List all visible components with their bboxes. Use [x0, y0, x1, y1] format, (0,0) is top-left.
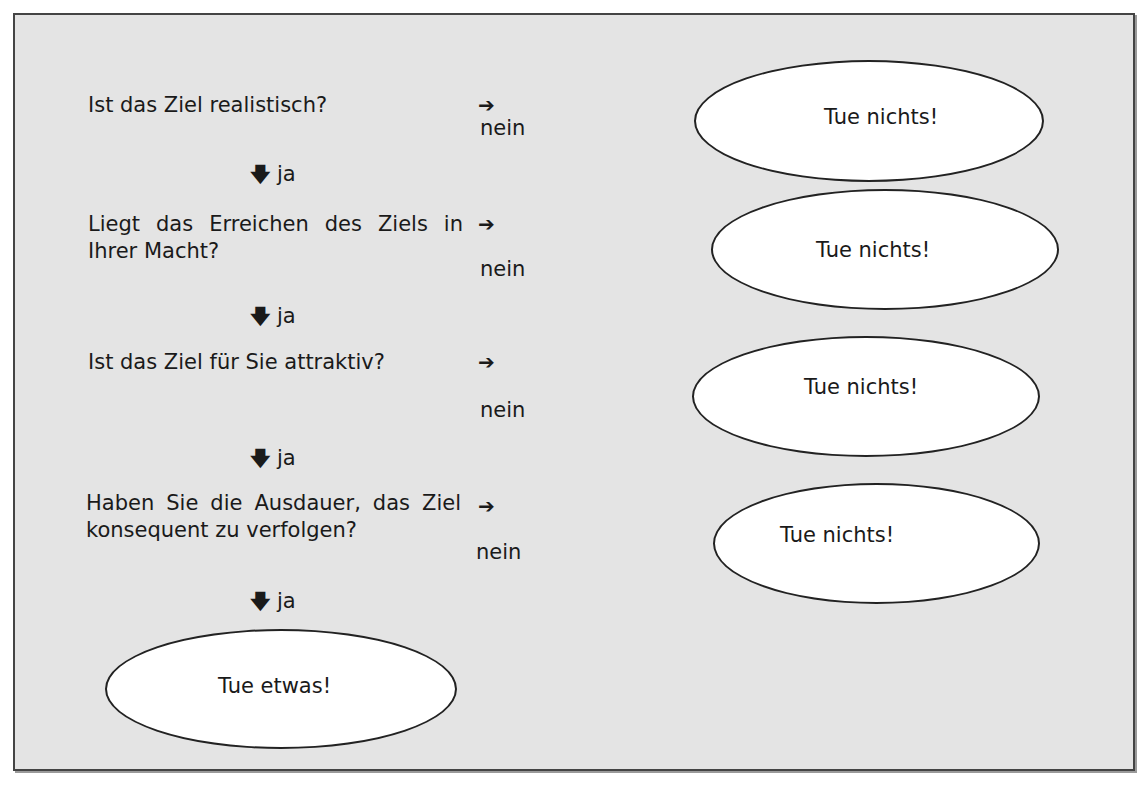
outcome-no-1: Tue nichts! [694, 60, 1044, 182]
arrow-right-icon: ➔ [478, 350, 495, 374]
yes-label-2: 🡇ja [250, 302, 296, 336]
arrow-down-icon: 🡇 [250, 162, 271, 186]
arrow-right-icon: ➔ [478, 93, 495, 117]
arrow-right-icon: ➔ [478, 494, 495, 518]
outcome-yes: Tue etwas! [105, 629, 457, 749]
yes-label-1: 🡇ja [250, 160, 296, 194]
outcome-no-3: Tue nichts! [692, 336, 1040, 457]
question-2: Liegt das Erreichen des Ziels in Ihrer M… [88, 211, 463, 265]
arrow-down-icon: 🡇 [250, 446, 271, 470]
no-label-4: nein [476, 540, 521, 564]
no-label-2: nein [480, 257, 525, 281]
question-1: Ist das Ziel realistisch? [88, 92, 327, 119]
outcome-no-2: Tue nichts! [711, 189, 1059, 310]
yes-label-4: 🡇ja [250, 587, 296, 621]
question-4: Haben Sie die Ausdauer, das Ziel konsequ… [86, 490, 461, 544]
arrow-right-icon: ➔ [478, 212, 495, 236]
yes-label-3: 🡇ja [250, 444, 296, 478]
no-label-1: nein [480, 116, 525, 140]
outcome-no-4: Tue nichts! [713, 483, 1040, 604]
question-3: Ist das Ziel für Sie attraktiv? [88, 349, 385, 376]
no-label-3: nein [480, 398, 525, 422]
arrow-down-icon: 🡇 [250, 589, 271, 613]
arrow-down-icon: 🡇 [250, 304, 271, 328]
